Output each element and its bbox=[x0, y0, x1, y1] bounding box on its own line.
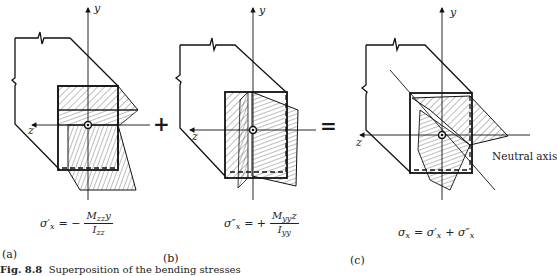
equation-b: σ″x = + Myyz Iyy bbox=[224, 210, 299, 237]
panel-b-beam bbox=[176, 8, 316, 200]
figure-caption: Fig. 8.8 Superposition of the bending st… bbox=[0, 264, 241, 275]
panel-a-y-axis-label: y bbox=[94, 2, 100, 15]
panel-c-label: (c) bbox=[350, 254, 365, 267]
panel-a-beam bbox=[12, 8, 150, 200]
panel-b-y-axis-label: y bbox=[259, 4, 265, 17]
panel-c-y-axis-label: y bbox=[450, 6, 456, 19]
panel-b-z-axis-label: z bbox=[192, 130, 198, 143]
equals-operator: = bbox=[320, 114, 337, 138]
equation-a: σ′x = − Mzzy Izz bbox=[40, 210, 113, 237]
panel-c-beam bbox=[360, 8, 530, 200]
panel-a-z-axis-label: z bbox=[28, 124, 34, 137]
neutral-axis-label: Neutral axis bbox=[492, 150, 557, 162]
plus-operator: + bbox=[153, 112, 170, 136]
equation-c: σx = σ′x + σ″x bbox=[398, 226, 474, 240]
panel-c-z-axis-label: z bbox=[356, 136, 362, 149]
panel-a-label: (a) bbox=[2, 248, 17, 261]
